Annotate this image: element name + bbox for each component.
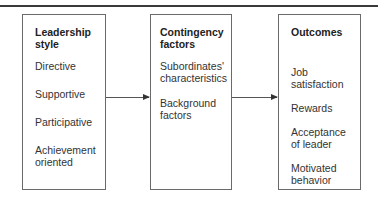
item-rewards: Rewards (291, 102, 360, 114)
item-acceptance-of-leader: Acceptance of leader (291, 126, 360, 150)
arrowhead-icon (271, 94, 278, 100)
item-line: Directive (35, 60, 105, 72)
title-line: Outcomes (291, 26, 360, 38)
item-line: satisfaction (291, 78, 360, 90)
arrowhead-icon (143, 94, 150, 100)
box-title: Contingency factors (160, 26, 231, 50)
item-subordinates-characteristics: Subordinates' characteristics (160, 60, 231, 84)
item-line: Acceptance (291, 126, 360, 138)
item-line: characteristics (160, 72, 231, 84)
title-line: factors (160, 38, 231, 50)
box-outcomes: Outcomes Job satisfaction Rewards Accept… (278, 14, 361, 190)
box-contingency-factors: Contingency factors Subordinates' charac… (150, 14, 232, 190)
item-line: Achievement (35, 144, 105, 156)
box-title: Leadership style (35, 26, 105, 50)
arrow-leadership-to-contingency (106, 97, 149, 98)
item-line: behavior (291, 174, 360, 186)
item-line: Motivated (291, 162, 360, 174)
item-background-factors: Background factors (160, 97, 231, 121)
item-line: Rewards (291, 102, 360, 114)
item-line: Job (291, 66, 360, 78)
box-title: Outcomes (291, 26, 360, 38)
item-supportive: Supportive (35, 88, 105, 100)
box-leadership-style: Leadership style Directive Supportive Pa… (22, 14, 106, 190)
item-line: Participative (35, 116, 105, 128)
item-line: Subordinates' (160, 60, 231, 72)
title-line: Leadership (35, 26, 105, 38)
arrow-contingency-to-outcomes (232, 97, 277, 98)
item-motivated-behavior: Motivated behavior (291, 162, 360, 186)
title-line: style (35, 38, 105, 50)
top-rule (0, 5, 378, 7)
item-line: Supportive (35, 88, 105, 100)
title-line: Contingency (160, 26, 231, 38)
item-line: factors (160, 109, 231, 121)
item-line: oriented (35, 156, 105, 168)
item-line: of leader (291, 138, 360, 150)
item-achievement-oriented: Achievement oriented (35, 144, 105, 168)
item-directive: Directive (35, 60, 105, 72)
item-job-satisfaction: Job satisfaction (291, 66, 360, 90)
item-line: Background (160, 97, 231, 109)
item-participative: Participative (35, 116, 105, 128)
